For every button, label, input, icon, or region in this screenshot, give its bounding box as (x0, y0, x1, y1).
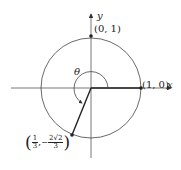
unit-circle-diagram: y x (0, 1) (1, 0) θ (13,−2√23) (0, 0, 181, 170)
point-terminal (70, 133, 74, 137)
point-top-label: (0, 1) (94, 24, 121, 34)
y-axis-label: y (97, 11, 103, 21)
point-top (89, 34, 93, 38)
point-terminal-label: (13,−2√23) (25, 134, 70, 151)
point-right-label: (1, 0) (142, 80, 169, 90)
angle-label: θ (74, 67, 80, 77)
